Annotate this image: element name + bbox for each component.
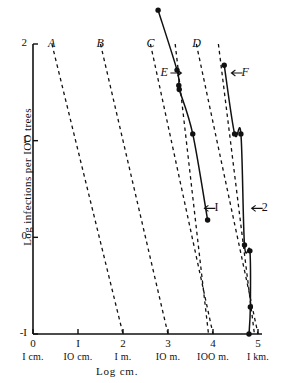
data-point-2-6: [246, 331, 251, 336]
series-label-1: I: [214, 200, 218, 215]
data-point-2-3: [242, 242, 247, 247]
data-point-1-0: [155, 7, 160, 12]
x-tick-label-3: 3: [148, 337, 188, 349]
data-point-1-3: [177, 87, 182, 92]
y-tick-label-3: -I: [0, 326, 27, 338]
y-tick-label-1: I: [0, 133, 27, 145]
series-label-C: C: [146, 36, 154, 51]
series-label-E: E: [160, 65, 167, 80]
y-tick-label-0: 2: [0, 36, 27, 48]
x-tick-label-5: 5: [238, 337, 278, 349]
data-point-2-1: [232, 131, 237, 136]
series-line-B: [101, 44, 169, 334]
series-label-F: F: [241, 65, 248, 80]
series-label-A: A: [48, 36, 55, 51]
data-point-1-1: [174, 67, 179, 72]
series-label-D: D: [192, 36, 201, 51]
x-tick-label-1: I: [58, 337, 98, 349]
data-point-1-5: [205, 217, 210, 222]
series-layer: [52, 10, 258, 334]
data-point-1-4: [190, 131, 195, 136]
x-tick-label-0: 0: [13, 337, 53, 349]
x-unit-label-5: I km.: [232, 351, 284, 362]
data-point-2-5: [248, 304, 253, 309]
x-tick-label-4: 4: [193, 337, 233, 349]
data-point-2-2: [238, 131, 243, 136]
chart-plot-area: [0, 0, 288, 383]
series-line-F: [218, 44, 254, 334]
data-point-2-0: [222, 63, 227, 68]
chart-figure: Log infections per IOO trees Log cm. 0I …: [0, 0, 288, 383]
series-label-B: B: [97, 36, 104, 51]
marker-layer: [155, 7, 253, 336]
series-line-A: [52, 44, 123, 334]
x-axis-title: Log cm.: [96, 365, 138, 377]
y-tick-label-2: 0: [0, 229, 27, 241]
x-tick-label-2: 2: [103, 337, 143, 349]
series-label-2: 2: [262, 200, 268, 215]
data-point-2-4: [247, 248, 252, 253]
